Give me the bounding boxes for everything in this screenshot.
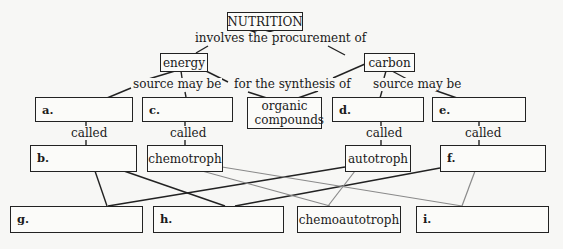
chemotroph-node: chemotroph [147, 145, 223, 172]
link-carbon-source: source may be [372, 78, 462, 91]
chemotroph-label: chemotroph [148, 152, 221, 166]
link-called-a: called [70, 127, 108, 140]
link-energy-source: source may be [132, 78, 222, 91]
blank-h[interactable]: h. [153, 206, 284, 233]
energy-node: energy [160, 53, 208, 72]
organic-compounds-label: organic compounds [255, 99, 315, 127]
blank-b[interactable]: b. [30, 145, 137, 172]
organic-compounds-node: organic compounds [247, 97, 322, 129]
link-called-d: called [365, 127, 403, 140]
chemoautotroph-label: chemoautotroph [299, 213, 399, 227]
blank-i[interactable]: i. [416, 206, 549, 233]
blank-a[interactable]: a. [35, 97, 133, 122]
nutrition-label: NUTRITION [227, 15, 302, 29]
blank-h-letter: h. [160, 212, 172, 226]
carbon-node: carbon [364, 53, 415, 72]
blank-d[interactable]: d. [332, 97, 424, 122]
blank-g-letter: g. [17, 212, 29, 226]
link-called-c: called [169, 127, 207, 140]
link-procurement: involves the procurement of [194, 32, 367, 45]
blank-i-letter: i. [423, 212, 431, 226]
autotroph-label: autotroph [348, 152, 408, 166]
blank-e-letter: e. [439, 103, 450, 117]
chemoautotroph-node: chemoautotroph [297, 206, 401, 233]
blank-g[interactable]: g. [10, 206, 143, 233]
nutrition-node: NUTRITION [227, 12, 303, 31]
link-called-e: called [464, 127, 502, 140]
autotroph-node: autotroph [345, 145, 411, 172]
carbon-label: carbon [368, 56, 410, 70]
blank-c[interactable]: c. [142, 97, 233, 122]
link-synthesis: for the synthesis of [233, 78, 352, 91]
blank-a-letter: a. [42, 103, 53, 117]
blank-c-letter: c. [149, 103, 160, 117]
blank-b-letter: b. [37, 151, 49, 165]
blank-e[interactable]: e. [432, 97, 526, 122]
blank-f-letter: f. [447, 151, 456, 165]
blank-f[interactable]: f. [440, 145, 546, 172]
blank-d-letter: d. [339, 103, 351, 117]
energy-label: energy [163, 56, 205, 70]
